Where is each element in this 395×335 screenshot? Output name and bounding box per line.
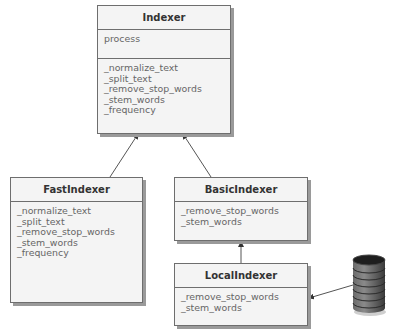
method: _frequency	[104, 105, 230, 116]
class-fastindexer-methods: _normalize_text _split_text _remove_stop…	[11, 202, 142, 259]
database-to-localindexer-arrow	[309, 285, 353, 298]
class-indexer[interactable]: Indexer process _normalize_text _split_t…	[97, 5, 231, 134]
class-localindexer-title: LocalIndexer	[175, 264, 307, 288]
class-basicindexer-methods: _remove_stop_words _stem_words	[175, 202, 307, 227]
database-cylinder-icon	[351, 253, 387, 317]
class-localindexer-methods: _remove_stop_words _stem_words	[175, 288, 307, 313]
method: _stem_words	[181, 217, 307, 228]
method: _frequency	[17, 248, 142, 259]
class-fastindexer-title: FastIndexer	[11, 178, 142, 202]
class-indexer-title: Indexer	[98, 6, 230, 30]
class-indexer-private-methods: _normalize_text _split_text _remove_stop…	[98, 59, 230, 116]
class-basicindexer-title: BasicIndexer	[175, 178, 307, 202]
class-localindexer[interactable]: LocalIndexer _remove_stop_words _stem_wo…	[174, 263, 308, 326]
class-indexer-public-methods: process	[98, 30, 230, 59]
method: _remove_stop_words	[181, 292, 307, 303]
method: _remove_stop_words	[181, 206, 307, 217]
fastindexer-to-indexer-arrow	[110, 134, 138, 177]
class-fastindexer[interactable]: FastIndexer _normalize_text _split_text …	[10, 177, 143, 303]
method: _normalize_text	[104, 63, 230, 74]
class-basicindexer[interactable]: BasicIndexer _remove_stop_words _stem_wo…	[174, 177, 308, 241]
method: _stem_words	[181, 303, 307, 314]
method: process	[104, 34, 230, 45]
method: _normalize_text	[17, 206, 142, 217]
basicindexer-to-indexer-arrow	[183, 134, 211, 177]
